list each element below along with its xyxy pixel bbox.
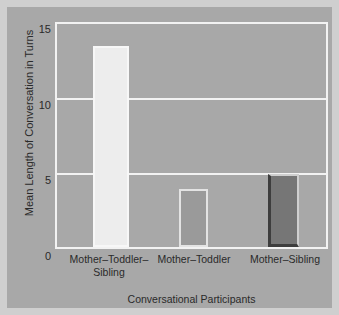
y-tick-label-5: 5	[45, 175, 51, 186]
bar-mother-toddler-sibling[interactable]	[93, 46, 129, 247]
x-tick-label-line-1: Mother–Sibling	[232, 253, 338, 266]
x-tick-label-line-2: Sibling	[51, 266, 167, 279]
bar-mother-toddler[interactable]	[179, 189, 208, 247]
chart-figure: 15 10 5 0 Mean Length of Conversation in…	[0, 0, 339, 315]
x-axis-tick-labels: Mother–Toddler– Sibling Mother–Toddler M…	[55, 253, 328, 293]
y-axis-title: Mean Length of Conversation in Turns	[23, 23, 35, 223]
x-axis-title: Conversational Participants	[55, 293, 328, 305]
plot-area	[57, 24, 326, 247]
x-tick-label-mother-sibling: Mother–Sibling	[232, 253, 338, 266]
y-tick-label-10: 10	[39, 100, 51, 111]
bar-mother-sibling[interactable]	[268, 174, 299, 247]
y-tick-label-15: 15	[39, 24, 51, 35]
plot-frame	[55, 22, 328, 249]
